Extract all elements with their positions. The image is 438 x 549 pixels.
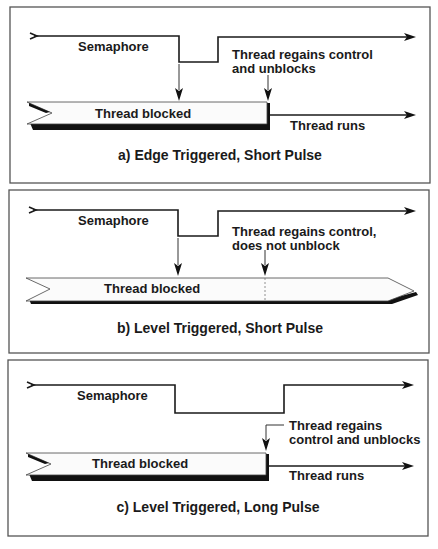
semaphore-label: Semaphore xyxy=(78,213,149,228)
thread-runs-label: Thread runs xyxy=(289,468,364,483)
panel-b: Semaphore Thread regains control, does n… xyxy=(9,190,429,353)
semaphore-label: Semaphore xyxy=(78,39,149,54)
panel-a: Semaphore Thread regains control and unb… xyxy=(10,7,430,183)
semaphore-label: Semaphore xyxy=(77,388,148,403)
panel-c: Semaphore Thread regains control and unb… xyxy=(8,360,428,536)
semaphore-timing-diagram: Semaphore Thread regains control and unb… xyxy=(0,0,438,549)
thread-blocked-bar xyxy=(26,278,418,304)
event-label-line1: Thread regains control xyxy=(232,47,373,62)
panel-caption: a) Edge Triggered, Short Pulse xyxy=(118,147,322,163)
thread-blocked-label: Thread blocked xyxy=(95,106,191,121)
thread-blocked-label: Thread blocked xyxy=(104,281,200,296)
panel-caption: c) Level Triggered, Long Pulse xyxy=(116,499,319,515)
thread-blocked-label: Thread blocked xyxy=(92,456,188,471)
event-label-line1: Thread regains control, xyxy=(232,224,376,239)
panel-caption: b) Level Triggered, Short Pulse xyxy=(117,320,323,336)
event-label-line1: Thread regains xyxy=(289,418,382,433)
event-label-line2: control and unblocks xyxy=(289,432,420,447)
event-label-line2: does not unblock xyxy=(232,238,340,253)
thread-runs-label: Thread runs xyxy=(290,118,365,133)
event-label-line2: and unblocks xyxy=(232,61,316,76)
